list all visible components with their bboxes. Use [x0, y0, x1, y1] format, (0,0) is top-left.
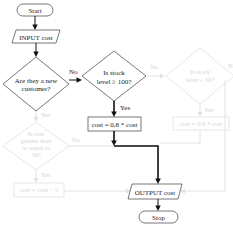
output-cost-label: OUTPUT cost	[135, 189, 176, 197]
arrow-head-icon	[32, 25, 37, 31]
decision-new-customer-line1: Are they a new	[15, 77, 59, 85]
faded-process-discount-2-label: cost = 0.9 * cost	[180, 120, 223, 127]
arrow-head-icon	[155, 206, 160, 212]
faded-decision-cost-50-line2: greater than	[21, 137, 53, 144]
arrow-head-icon	[160, 74, 165, 79]
stop-label: Stop	[152, 214, 165, 222]
faded-decision-cost-50-line4: 50?	[31, 151, 41, 158]
decision-new-customer-line2: customer?	[22, 85, 51, 93]
faded-no-label-2: No	[228, 62, 233, 69]
arrow-head-icon	[77, 77, 83, 82]
connector	[114, 146, 158, 181]
input-cost-label: INPUT cost	[19, 34, 53, 42]
faded-decision-stock-50-line2: level ≥ 50?	[186, 76, 215, 83]
faded-process-minus-5-label: cost = cost − 5	[20, 186, 58, 193]
decision-stock-100-line2: level ≥ 100?	[97, 78, 132, 86]
process-discount-label: cost = 0.8 * cost	[92, 121, 138, 129]
faded-yes-label-left: Yes	[41, 111, 51, 118]
no-label: No	[69, 68, 78, 76]
yes-label: Yes	[120, 104, 130, 112]
faded-yes-label: Yes	[204, 106, 214, 113]
faded-decision-cost-50-line1: Is cost	[28, 130, 45, 137]
arrow-head-icon	[34, 178, 39, 183]
arrow-head-icon	[111, 112, 117, 118]
decision-stock-100-line1: Is stock	[103, 69, 125, 77]
faded-no-label-left: No	[72, 136, 80, 143]
arrow-head-icon	[33, 52, 38, 58]
faded-no-label: No	[150, 63, 158, 70]
faded-decision-stock-50-line1: Is stock	[190, 68, 211, 75]
start-label: Start	[28, 7, 41, 15]
arrow-head-icon	[111, 141, 117, 147]
faded-decision-cost-50-line3: or equal to	[22, 144, 50, 151]
faded-yes-label-left-2: Yes	[41, 171, 51, 178]
arrow-head-icon	[198, 112, 203, 117]
arrow-head-icon	[34, 117, 39, 122]
flowchart: No Is stock level ≥ 50? No Yes cost = 0.…	[0, 0, 233, 227]
arrow-head-icon	[155, 179, 161, 185]
